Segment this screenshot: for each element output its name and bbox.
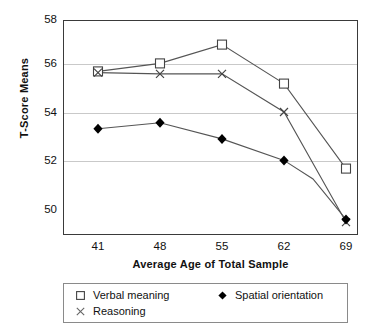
- chart-legend: Verbal meaning Reasoning Spatial orienta…: [63, 283, 348, 323]
- line-chart-figure: T-Score Means 58 56 54 52 50: [0, 0, 368, 329]
- y-tick-label-54: 54: [17, 107, 57, 119]
- data-points-reasoning: [94, 69, 350, 227]
- legend-label-verbal-meaning: Verbal meaning: [93, 289, 169, 301]
- legend-label-reasoning: Reasoning: [93, 305, 146, 317]
- x-tick-label-62: 62: [264, 240, 304, 252]
- chart-data-layer: [63, 20, 358, 235]
- legend-item-spatial-orientation: Spatial orientation: [214, 289, 323, 301]
- x-axis-title: Average Age of Total Sample: [63, 258, 358, 270]
- x-tick-label-69: 69: [326, 240, 366, 252]
- x-tick-label-41: 41: [78, 240, 118, 252]
- legend-item-reasoning: Reasoning: [72, 305, 146, 317]
- series-line-reasoning: [98, 73, 346, 223]
- legend-item-verbal-meaning: Verbal meaning: [72, 289, 169, 301]
- data-point-verbal-55: [218, 40, 227, 49]
- cross-icon: [72, 307, 88, 316]
- data-points-spatial-orientation: [93, 118, 350, 225]
- data-point-verbal-62: [280, 79, 289, 88]
- y-tick-label-58: 58: [17, 14, 57, 26]
- y-tick-label-50: 50: [17, 204, 57, 216]
- y-axis-title: T-Score Means: [18, 28, 30, 168]
- y-tick-label-56: 56: [17, 58, 57, 70]
- x-tick-label-55: 55: [202, 240, 242, 252]
- open-square-icon: [72, 291, 88, 300]
- data-point-verbal-69: [342, 164, 351, 173]
- x-tick-label-48: 48: [140, 240, 180, 252]
- data-point-verbal-48: [156, 59, 165, 68]
- filled-diamond-icon: [214, 291, 230, 300]
- y-tick-label-52: 52: [17, 155, 57, 167]
- series-line-verbal-meaning: [98, 45, 346, 169]
- legend-label-spatial-orientation: Spatial orientation: [235, 289, 323, 301]
- data-point-verbal-41: [94, 67, 103, 76]
